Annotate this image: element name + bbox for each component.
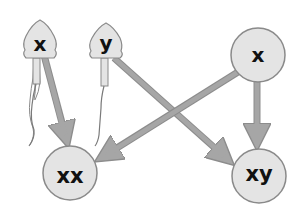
child-xx-label: xx bbox=[56, 164, 84, 188]
egg-x-label: x bbox=[252, 43, 265, 67]
sperm-y-tail bbox=[95, 58, 108, 146]
arrows bbox=[44, 55, 257, 158]
inheritance-diagram: x y x xx xy bbox=[0, 0, 303, 213]
child-xy-label: xy bbox=[245, 162, 273, 186]
sperm-x: x bbox=[24, 20, 57, 58]
sperm-x-label: x bbox=[34, 32, 47, 56]
child-xy: xy bbox=[232, 149, 286, 203]
sperm-y: y bbox=[90, 23, 123, 58]
egg-x: x bbox=[231, 28, 285, 82]
child-xx: xx bbox=[43, 146, 97, 200]
sperm-x-tail bbox=[29, 58, 40, 146]
sperm-y-label: y bbox=[99, 31, 112, 55]
